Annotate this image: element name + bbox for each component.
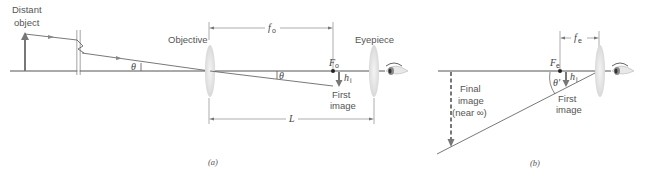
- first-image-label: First: [332, 89, 351, 100]
- svg-text:i: i: [350, 77, 352, 84]
- theta-label: θ: [131, 61, 136, 72]
- eye-icon: [612, 63, 634, 75]
- eye-icon: [386, 63, 408, 75]
- final-image-label-3: (near ∞): [452, 107, 487, 118]
- eyepiece-lens-b: [595, 45, 605, 97]
- final-image-label: Final: [460, 83, 481, 94]
- svg-text:o: o: [272, 27, 276, 34]
- theta-prime-label: θ′: [553, 77, 561, 88]
- first-image-label-2: image: [330, 100, 356, 111]
- focal-point-o: [331, 69, 335, 73]
- telescope-diagram: Distant object θ Objective θ: [0, 0, 657, 176]
- first-image-label-b-2: image: [556, 104, 582, 115]
- image-height-label-b: h: [570, 71, 575, 82]
- first-image-arrow-b: [563, 72, 570, 87]
- eyepiece-lens: [369, 45, 379, 97]
- ray-arrow-icon: [48, 35, 54, 39]
- eyepiece-label: Eyepiece: [355, 34, 394, 45]
- caption-a: (a): [208, 157, 218, 167]
- svg-text:o: o: [335, 62, 339, 69]
- first-image-arrow: [336, 72, 343, 87]
- panel-a: Distant object θ Objective θ: [10, 4, 408, 167]
- svg-text:L: L: [288, 113, 295, 124]
- objective-label: Objective: [168, 34, 208, 45]
- image-height-label: h: [344, 72, 349, 83]
- svg-text:e: e: [556, 62, 560, 69]
- ray-arrow-icon: [116, 56, 122, 60]
- distant-object-arrow: [21, 32, 29, 71]
- caption-b: (b): [530, 158, 540, 168]
- first-image-label-b: First: [558, 93, 577, 104]
- final-image-label-2: image: [458, 95, 484, 106]
- distant-object-label: Distant: [12, 4, 42, 15]
- svg-text:e: e: [578, 37, 582, 44]
- theta-inner-label: θ: [279, 70, 284, 81]
- focal-length-o-dimension: f o: [209, 22, 333, 71]
- panel-b: Final image (near ∞) θ′ F e h i First im…: [437, 31, 634, 168]
- distant-object-label-2: object: [14, 17, 40, 28]
- focal-length-e-dimension: f e: [560, 31, 599, 70]
- axis-break: [77, 30, 80, 75]
